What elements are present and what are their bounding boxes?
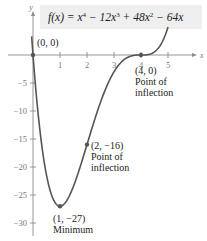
function-curve (32, 27, 168, 206)
title-part: − 64x (153, 11, 184, 23)
y-tick-label: −30 (14, 218, 27, 228)
y-tick-label: −10 (14, 106, 27, 116)
key-point-marker (85, 142, 89, 146)
y-axis-label: y (28, 3, 33, 12)
point-note: Point of (91, 151, 124, 162)
title-part: + 48x (120, 11, 151, 23)
point-note: Point of (135, 76, 168, 87)
x-tick-label: 2 (85, 60, 89, 70)
key-point-marker (139, 53, 143, 57)
chart: f(x) = x4 − 12x3 + 48x2 − 64x xy 12345−5… (0, 0, 207, 241)
x-axis-arrow-icon (192, 53, 197, 57)
title-part: − 12x (86, 11, 117, 23)
key-points (31, 53, 143, 209)
y-tick-label: −15 (14, 134, 27, 144)
point-note: inflection (135, 87, 173, 98)
key-point-marker (58, 204, 62, 208)
x-axis-label: x (199, 51, 204, 60)
point-label: (0, 0) (37, 37, 59, 49)
point-note: Minimum (53, 224, 93, 235)
y-tick-label: −20 (14, 162, 27, 172)
y-tick-label: −5 (18, 78, 27, 88)
chart-title: f(x) = x4 − 12x3 + 48x2 − 64x (48, 11, 184, 24)
y-tick-label: −25 (14, 190, 27, 200)
point-note: inflection (91, 162, 129, 173)
x-tick-label: 5 (166, 60, 170, 70)
x-tick-label: 1 (58, 60, 62, 70)
title-part: (x) = x (51, 11, 83, 24)
key-point-marker (31, 53, 35, 57)
